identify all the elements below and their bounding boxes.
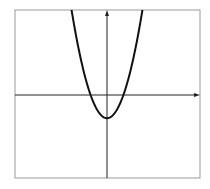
- parabola-chart: [0, 0, 210, 189]
